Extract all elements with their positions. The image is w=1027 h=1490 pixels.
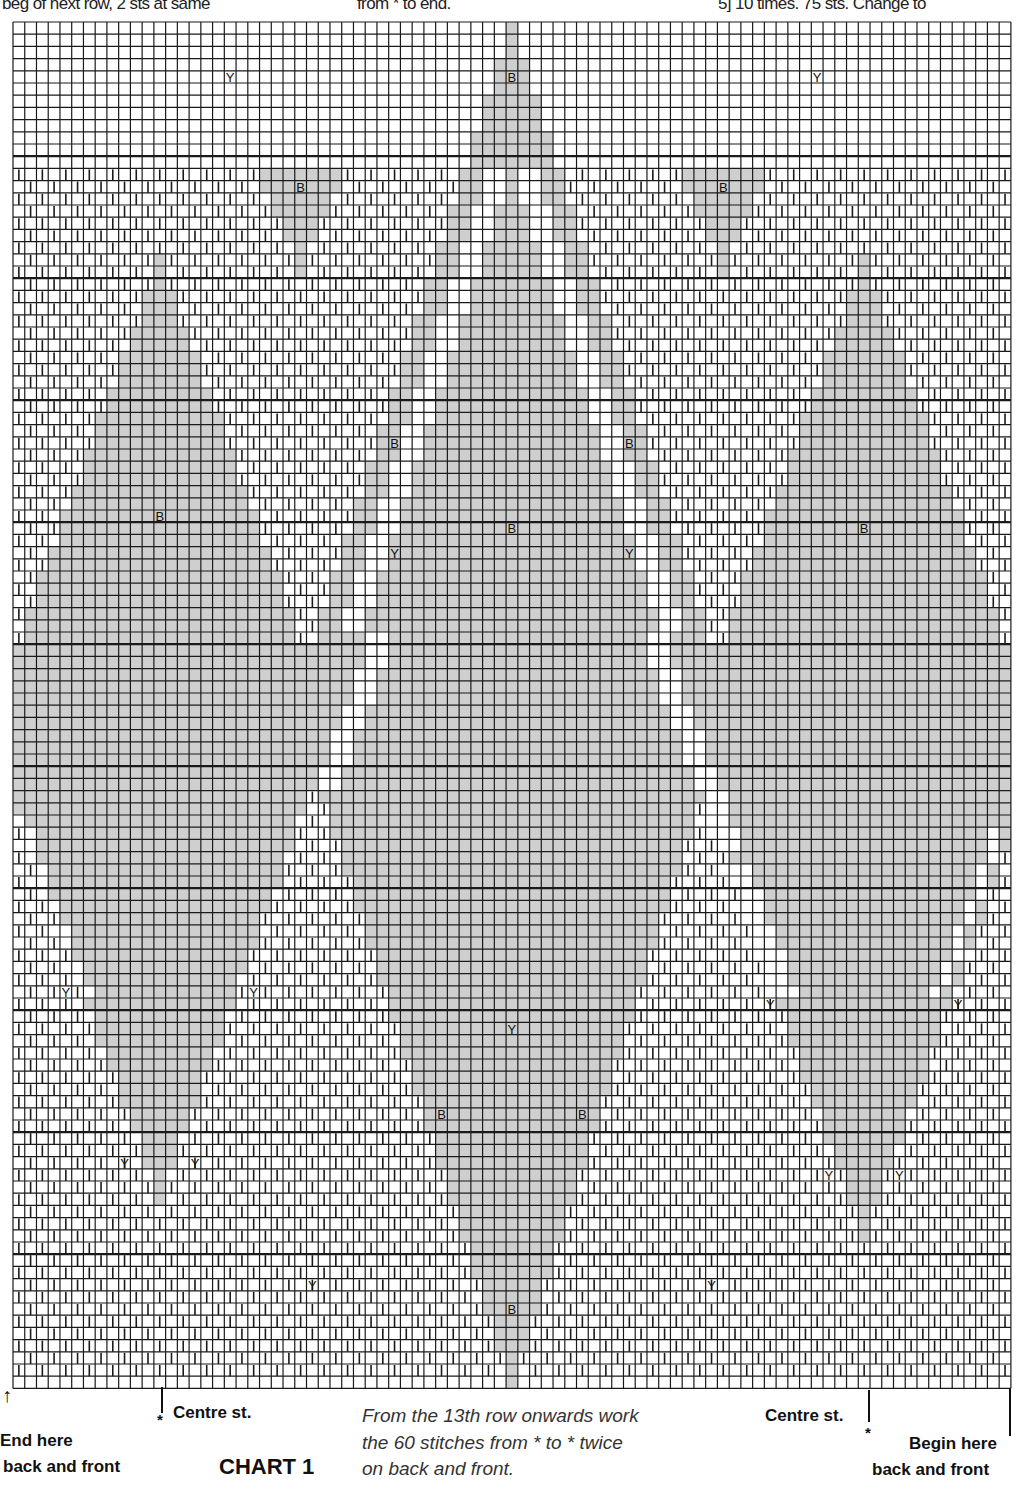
cell-label-b: B [508,521,517,536]
knitting-chart-grid: YBYBBBBBBBYYYYYYYBBYYYYYYB [0,0,1027,1400]
begin-here-label: Begin here [909,1434,997,1454]
cell-label-y: Y [813,70,822,85]
begin-here-label-2: back and front [872,1460,989,1480]
cell-label-b: B [860,521,869,536]
cell-label-b: B [437,1107,446,1122]
cell-label-b: B [155,509,164,524]
cell-label-y: Y [508,1022,517,1037]
cell-label-b: B [508,1302,517,1317]
chart-title: CHART 1 [219,1454,314,1480]
star-icon-left: * [157,1411,163,1428]
cell-label-y: Y [954,997,963,1012]
cell-label-y: Y [766,997,775,1012]
cell-label-b: B [625,436,634,451]
begin-here-marker [1009,1388,1011,1436]
end-here-arrow-icon: ↑ [2,1384,12,1407]
cell-label-b: B [390,436,399,451]
cell-label-y: Y [825,1168,834,1183]
cell-label-y: Y [625,546,634,561]
centre-st-label-left: Centre st. [173,1403,251,1423]
cell-label-y: Y [707,1278,716,1293]
cell-label-b: B [578,1107,587,1122]
end-here-label: End here [0,1431,73,1451]
chart-note-line-3: on back and front. [362,1457,514,1481]
cell-label-b: B [296,180,305,195]
cell-label-y: Y [191,1156,200,1171]
star-icon-right: * [865,1424,871,1441]
chart-note-line-1: From the 13th row onwards work [362,1404,639,1428]
cell-label-y: Y [249,985,258,1000]
cell-label-b: B [719,180,728,195]
end-here-label-2: back and front [3,1457,120,1477]
cell-label-y: Y [120,1156,129,1171]
cell-label-y: Y [61,985,70,1000]
centre-marker-left [161,1387,163,1413]
chart-note-line-2: the 60 stitches from * to * twice [362,1431,623,1455]
cell-label-y: Y [390,546,399,561]
cell-label-y: Y [895,1168,904,1183]
cell-label-y: Y [308,1278,317,1293]
cell-label-y: Y [226,70,235,85]
cell-label-b: B [508,70,517,85]
centre-st-label-right: Centre st. [765,1406,843,1426]
centre-marker-right [868,1390,870,1422]
